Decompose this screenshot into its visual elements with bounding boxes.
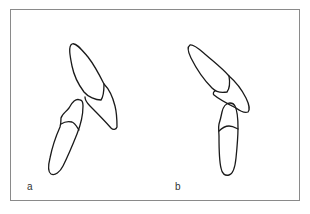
- panel-a-cej-line: [61, 122, 79, 130]
- panel-label-a: a: [27, 182, 33, 192]
- caption-strip: [12, 206, 302, 214]
- panel-a-lower-tooth: [49, 99, 83, 174]
- panel-a-upper-root: [85, 84, 117, 129]
- panel-a-upper-crown: [70, 44, 104, 100]
- tooth-diagram: [0, 0, 310, 214]
- panel-b-lower-tooth: [219, 103, 238, 175]
- panel-b-drawing: [188, 45, 249, 175]
- panel-b-cej-line: [219, 126, 238, 131]
- panel-b-upper-crown: [188, 45, 229, 92]
- panel-label-b: b: [175, 182, 181, 192]
- panel-b-upper-root: [213, 76, 249, 112]
- panel-a-drawing: [49, 44, 117, 175]
